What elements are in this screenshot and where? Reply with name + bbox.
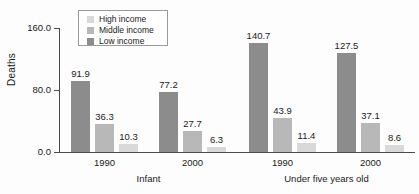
bar-slot: 10.3 <box>119 28 138 152</box>
bar-slot: 11.4 <box>297 28 316 152</box>
bar-value-label: 11.4 <box>298 130 316 141</box>
bar-group: 77.227.76.3 <box>159 28 226 152</box>
bar[interactable] <box>297 143 316 152</box>
bar-value-label: 36.3 <box>95 111 114 122</box>
bar-value-label: 77.2 <box>159 79 178 90</box>
bar-slot: 127.5 <box>337 28 356 152</box>
bar-value-label: 127.5 <box>335 40 359 51</box>
y-axis-tick <box>54 152 60 153</box>
bar-value-label: 8.6 <box>388 132 401 143</box>
bar-value-label: 37.1 <box>361 110 380 121</box>
x-axis-tick-label: 2000 <box>341 157 401 168</box>
bar-group: 91.936.310.3 <box>71 28 138 152</box>
bar[interactable] <box>183 131 202 152</box>
bar-value-label: 27.7 <box>183 118 202 129</box>
bar-value-label: 6.3 <box>210 134 223 145</box>
bar[interactable] <box>337 53 356 152</box>
y-axis-tick-label: 80.0 <box>5 84 51 95</box>
bar-slot: 36.3 <box>95 28 114 152</box>
x-axis-group-label: Under five years old <box>247 173 407 184</box>
bar-value-label: 10.3 <box>119 131 138 142</box>
x-axis-tick-label: 2000 <box>163 157 223 168</box>
bar-slot: 37.1 <box>361 28 380 152</box>
y-axis-tick-label: 160.0 <box>5 22 51 33</box>
x-axis-tick-label: 1990 <box>75 157 135 168</box>
x-axis-tick-label: 1990 <box>253 157 313 168</box>
bar[interactable] <box>273 118 292 152</box>
bar-slot: 6.3 <box>207 28 226 152</box>
x-axis-group-label: Infant <box>69 173 229 184</box>
bar[interactable] <box>159 92 178 152</box>
bar-slot: 43.9 <box>273 28 292 152</box>
x-axis-line <box>59 152 415 153</box>
bar-slot: 8.6 <box>385 28 404 152</box>
bar-group: 140.743.911.4 <box>249 28 316 152</box>
bar-slot: 27.7 <box>183 28 202 152</box>
legend-swatch-icon <box>87 16 94 23</box>
bar-slot: 77.2 <box>159 28 178 152</box>
bar[interactable] <box>71 81 90 152</box>
bar[interactable] <box>361 123 380 152</box>
bar-slot: 91.9 <box>71 28 90 152</box>
bar[interactable] <box>207 147 226 152</box>
bar-group: 127.537.18.6 <box>337 28 404 152</box>
bar[interactable] <box>385 145 404 152</box>
bar[interactable] <box>249 43 268 152</box>
plot-area: 91.936.310.377.227.76.3140.743.911.4127.… <box>59 28 415 152</box>
y-axis-tick-label: 0.0 <box>5 146 51 157</box>
legend-label: High income <box>99 14 146 25</box>
bar-chart: Deaths 0.080.0160.0 High incomeMiddle in… <box>0 0 419 194</box>
bar[interactable] <box>119 144 138 152</box>
legend-item[interactable]: High income <box>87 14 167 25</box>
bar-slot: 140.7 <box>249 28 268 152</box>
bar[interactable] <box>95 124 114 152</box>
bar-value-label: 43.9 <box>273 105 292 116</box>
bar-value-label: 91.9 <box>71 68 90 79</box>
bar-value-label: 140.7 <box>247 30 271 41</box>
